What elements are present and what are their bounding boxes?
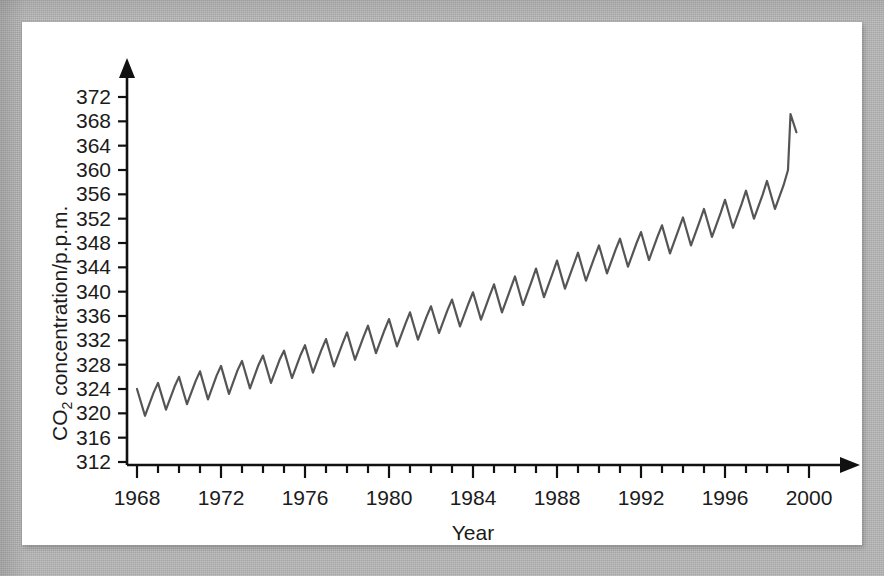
x-axis-tick-label: 1984 xyxy=(450,486,497,510)
y-axis-tick-label: 312 xyxy=(22,450,111,474)
y-axis-title: CO2 concentration/p.p.m. xyxy=(48,206,75,441)
x-axis-tick-label: 1972 xyxy=(198,486,245,510)
chart-panel: 3123163203243283323363403443483523563603… xyxy=(22,22,862,545)
y-axis-tick-label: 372 xyxy=(22,85,111,109)
x-axis-tick-label: 1968 xyxy=(114,486,161,510)
y-axis-title-subscript: 2 xyxy=(59,402,75,410)
y-axis-title-post: concentration/p.p.m. xyxy=(48,206,71,402)
y-axis-tick-label: 368 xyxy=(22,109,111,133)
x-axis-tick-label: 1996 xyxy=(702,486,749,510)
y-axis-tick-label: 360 xyxy=(22,158,111,182)
data-series-line xyxy=(137,114,796,416)
x-axis-tick-label: 1988 xyxy=(534,486,581,510)
x-axis-arrowhead xyxy=(840,457,860,473)
y-axis-arrowhead xyxy=(119,58,135,78)
x-axis-tick-label: 1992 xyxy=(618,486,665,510)
x-axis-tick-label: 1980 xyxy=(366,486,413,510)
y-axis-tick-label: 364 xyxy=(22,134,111,158)
figure-root: 3123163203243283323363403443483523563603… xyxy=(0,0,884,576)
y-axis-title-pre: CO xyxy=(48,410,71,442)
chart-plot-area xyxy=(22,22,862,545)
x-axis-tick-label: 2000 xyxy=(786,486,833,510)
y-axis-tick-label: 356 xyxy=(22,182,111,206)
x-axis-tick-label: 1976 xyxy=(282,486,329,510)
x-axis-title: Year xyxy=(452,521,494,545)
